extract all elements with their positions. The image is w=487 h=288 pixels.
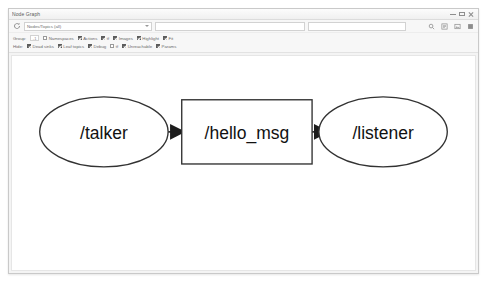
group-filter-row: Group: -1 Namespaces Actions tf Images H… xyxy=(13,34,474,42)
toolbar-actions xyxy=(427,22,474,30)
graph-node-label: /listener xyxy=(352,123,413,143)
hide-row-label: Hide: xyxy=(13,44,23,49)
title-bar[interactable]: Node Graph xyxy=(9,9,478,20)
maximize-icon[interactable] xyxy=(459,11,465,17)
checkbox-box xyxy=(122,44,126,48)
group-row-label: Group: xyxy=(13,36,26,41)
checkbox-label: Highlight xyxy=(142,36,159,41)
hide-filter-row: Hide: Dead sinks Leaf topics Debug tf Un… xyxy=(13,42,474,50)
checkbox-label: Params xyxy=(162,44,177,49)
hide-checkbox-debug[interactable]: Debug xyxy=(88,44,106,49)
group-checkbox-tf[interactable]: tf xyxy=(101,36,109,41)
hide-checkbox-params[interactable]: Params xyxy=(156,44,176,49)
hide-checkbox-dead-sinks[interactable]: Dead sinks xyxy=(27,44,54,49)
group-checkbox-fit[interactable]: Fit xyxy=(163,36,173,41)
graph-type-select[interactable]: Nodes/Topics (all) xyxy=(24,22,152,31)
checkbox-box xyxy=(78,36,82,40)
filter-panel: Group: -1 Namespaces Actions tf Images H… xyxy=(9,33,478,53)
checkbox-box xyxy=(113,36,117,40)
checkbox-box xyxy=(43,36,47,40)
checkbox-box xyxy=(27,44,31,48)
graph-node-listener[interactable]: /listener xyxy=(319,97,447,167)
graph-type-value: Nodes/Topics (all) xyxy=(27,24,61,29)
rqt-graph-window: Node Graph Nodes/Topics (all) xyxy=(8,8,479,274)
checkbox-label: Images xyxy=(119,36,133,41)
checkbox-box xyxy=(163,36,167,40)
checkbox-label: Actions xyxy=(83,36,97,41)
checkbox-box xyxy=(137,36,141,40)
graph-node-hello_msg[interactable]: /hello_msg xyxy=(182,100,312,164)
group-checkbox-images[interactable]: Images xyxy=(113,36,133,41)
close-icon[interactable] xyxy=(468,11,474,17)
checkbox-label: Leaf topics xyxy=(63,44,84,49)
highlight-icon[interactable] xyxy=(466,22,474,30)
topic-filter-input[interactable] xyxy=(308,22,406,31)
save-dot-icon[interactable] xyxy=(440,22,448,30)
save-image-icon[interactable] xyxy=(453,22,461,30)
group-checkbox-actions[interactable]: Actions xyxy=(78,36,98,41)
zoom-fit-icon[interactable] xyxy=(427,22,435,30)
graph-node-label: /hello_msg xyxy=(205,123,290,144)
group-checkbox-highlight[interactable]: Highlight xyxy=(137,36,159,41)
graph-node-label: /talker xyxy=(80,123,128,143)
checkbox-label: tf xyxy=(116,44,118,49)
graph-canvas[interactable]: /talker /hello_msg /listener xyxy=(11,55,476,271)
refresh-icon[interactable] xyxy=(13,22,21,30)
chevron-down-icon xyxy=(145,25,149,27)
graph-svg: /talker /hello_msg /listener xyxy=(12,56,475,270)
window-title: Node Graph xyxy=(12,9,450,20)
window-controls xyxy=(450,11,475,17)
namespace-filter-input[interactable] xyxy=(155,22,305,31)
checkbox-box xyxy=(88,44,92,48)
graph-node-talker[interactable]: /talker xyxy=(40,97,168,167)
group-depth-spinner[interactable]: -1 xyxy=(30,35,39,41)
checkbox-label: Fit xyxy=(169,36,174,41)
hide-checkbox-leaf-topics[interactable]: Leaf topics xyxy=(58,44,84,49)
minimize-icon[interactable] xyxy=(450,11,456,17)
checkbox-box xyxy=(156,44,160,48)
group-checkbox-namespaces[interactable]: Namespaces xyxy=(43,36,74,41)
checkbox-label: Dead sinks xyxy=(33,44,54,49)
checkbox-label: Debug xyxy=(94,44,107,49)
checkbox-box xyxy=(101,36,105,40)
toolbar: Nodes/Topics (all) xyxy=(9,20,478,33)
checkbox-label: tf xyxy=(107,36,109,41)
checkbox-label: Unreachable xyxy=(128,44,152,49)
checkbox-box xyxy=(110,44,114,48)
hide-checkbox-unreachable[interactable]: Unreachable xyxy=(122,44,152,49)
checkbox-box xyxy=(58,44,62,48)
checkbox-label: Namespaces xyxy=(49,36,74,41)
hide-checkbox-tf[interactable]: tf xyxy=(110,44,118,49)
